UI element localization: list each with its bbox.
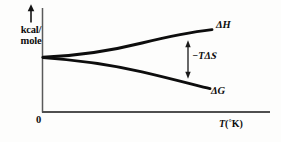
- delta-h-curve: [43, 30, 212, 58]
- gap-annotation-entropy-symbol: S: [210, 51, 217, 61]
- x-axis-label: T(°K): [219, 119, 243, 129]
- y-axis-label: kcal/ mole: [18, 25, 44, 46]
- gap-annotation-minus-t-delta-s: −TΔS: [192, 51, 217, 61]
- thermodynamics-plot-figure: kcal/ mole 0 T(°K) ΔH ΔG −TΔS: [0, 0, 281, 142]
- delta-g-curve: [43, 58, 210, 89]
- y-axis-label-line-2: mole: [18, 36, 44, 47]
- origin-tick-label: 0: [36, 115, 41, 126]
- double-headed-vertical-arrow-icon: [185, 40, 190, 79]
- gap-annotation-prefix: −TΔ: [192, 50, 211, 61]
- curve-label-delta-h: ΔH: [216, 20, 231, 31]
- curve-label-delta-g: ΔG: [211, 86, 225, 97]
- y-axis-direction-up-arrow-icon: [28, 4, 35, 22]
- x-axis-label-paren-close: ): [239, 118, 242, 129]
